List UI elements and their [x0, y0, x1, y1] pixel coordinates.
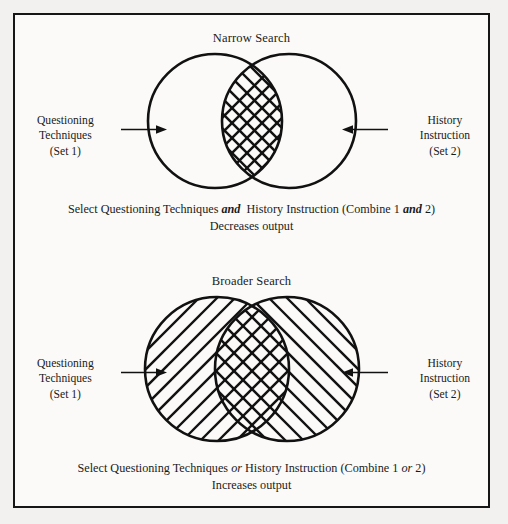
set-2-label-narrow: History Instruction (Set 2) [420, 113, 470, 159]
panel-title-broader: Broader Search [15, 274, 488, 289]
caption-broader-line2: Increases output [15, 477, 488, 494]
arrow-left-pointing-icon [342, 125, 388, 134]
arrow-left-pointing-icon [342, 368, 388, 377]
set-1-label-broader: Questioning Techniques (Set 1) [37, 356, 94, 402]
caption-broader-l1-part1: Select Questioning Techniques [78, 461, 229, 475]
caption-narrow-l1-part3: 2) [425, 202, 435, 216]
intersection-crosshatch [182, 48, 362, 198]
figure-frame: Narrow Search [13, 13, 490, 508]
panel-narrow-search: Narrow Search [15, 15, 488, 263]
caption-broader-l1-part3: 2) [415, 461, 425, 475]
set-2-label-line2: Instruction [420, 371, 470, 386]
set-2-circle-narrow [222, 54, 356, 188]
set-2-label-line2: Instruction [420, 128, 470, 143]
caption-narrow-operator-2: and [403, 202, 422, 216]
set-2-label-broader: History Instruction (Set 2) [420, 356, 470, 402]
set-1-label-narrow: Questioning Techniques (Set 1) [37, 113, 94, 159]
set-1-label-line3: (Set 1) [37, 387, 94, 402]
caption-broader-operator-1: or [231, 461, 242, 475]
set-1-label-line2: Techniques [37, 128, 94, 143]
caption-narrow: Select Questioning Techniques and Histor… [15, 201, 488, 236]
venn-broader-svg [142, 291, 362, 451]
caption-narrow-line2: Decreases output [15, 218, 488, 235]
set-2-label-line3: (Set 2) [420, 144, 470, 159]
set-1-label-line1: Questioning [37, 356, 94, 371]
caption-narrow-l1-part2: History Instruction (Combine 1 [247, 202, 400, 216]
set-2-label-line1: History [420, 356, 470, 371]
set-1-label-line2: Techniques [37, 371, 94, 386]
arrow-right-pointing-icon [121, 125, 167, 134]
caption-broader-line1: Select Questioning Techniques or History… [15, 460, 488, 477]
caption-broader-operator-2: or [401, 461, 412, 475]
caption-narrow-operator-1: and [221, 202, 240, 216]
panel-title-narrow: Narrow Search [15, 31, 488, 46]
caption-narrow-line1: Select Questioning Techniques and Histor… [15, 201, 488, 218]
set-2-label-line1: History [420, 113, 470, 128]
arrow-right-pointing-icon [121, 368, 167, 377]
caption-broader-l1-part2: History Instruction (Combine 1 [245, 461, 398, 475]
set-1-label-line3: (Set 1) [37, 144, 94, 159]
caption-broader: Select Questioning Techniques or History… [15, 460, 488, 495]
venn-narrow-svg [142, 48, 362, 198]
set-1-label-line1: Questioning [37, 113, 94, 128]
set-2-label-line3: (Set 2) [420, 387, 470, 402]
set-1-circle-narrow [148, 54, 282, 188]
panel-broader-search: Broader Search [15, 263, 488, 508]
caption-narrow-l1-part1: Select Questioning Techniques [68, 202, 219, 216]
